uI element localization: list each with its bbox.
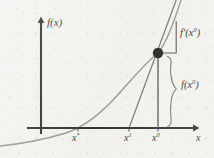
x-one-label: x1 (124, 133, 132, 143)
function-curve (0, 0, 181, 146)
iterate-point-marker (153, 48, 163, 58)
x-star-label: x* (72, 133, 80, 143)
tangent-line (129, 0, 176, 128)
function-value-label: f(x0) (181, 80, 199, 91)
y-axis-arrowhead (38, 17, 45, 24)
x-axis-label: x (196, 133, 200, 143)
y-axis-label: f(x) (47, 17, 62, 28)
newton-method-figure: f(x) f′(x0) f(x0) x* x1 x0 x (0, 0, 214, 158)
value-brace (168, 57, 177, 127)
derivative-label: f′(x0) (180, 28, 200, 39)
x-zero-label: x0 (152, 133, 160, 143)
x-axis-arrowhead (193, 125, 200, 132)
